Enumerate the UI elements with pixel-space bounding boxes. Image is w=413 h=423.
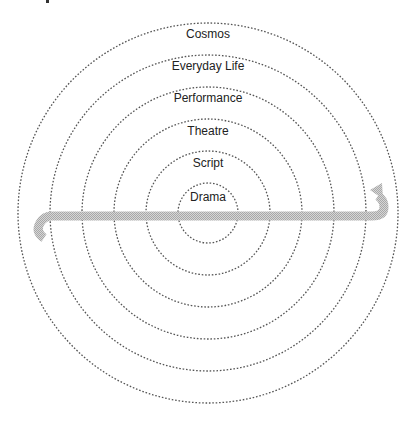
- label-cosmos: Cosmos: [186, 27, 230, 41]
- label-script: Script: [193, 156, 224, 170]
- ring-labels: Cosmos Everyday Life Performance Theatre…: [172, 27, 245, 204]
- arrow-head-right-icon: [370, 183, 383, 199]
- concentric-diagram: Cosmos Everyday Life Performance Theatre…: [0, 0, 413, 423]
- label-everyday-life: Everyday Life: [172, 59, 245, 73]
- label-performance: Performance: [174, 91, 243, 105]
- label-drama: Drama: [190, 190, 226, 204]
- label-theatre: Theatre: [187, 124, 229, 138]
